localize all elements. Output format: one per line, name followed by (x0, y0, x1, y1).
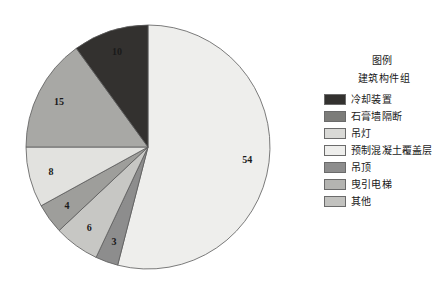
legend-item-label: 预制混凝土覆盖层 (351, 145, 433, 156)
pie-slice-value-label: 6 (87, 222, 92, 233)
legend-item-label: 其他 (351, 196, 371, 207)
legend-item-label: 石膏墙隔断 (351, 111, 402, 122)
pie-slice-value-label: 54 (242, 154, 252, 165)
legend-item-label: 吊灯 (351, 128, 371, 139)
legend-swatch (324, 196, 346, 207)
pie-slice-value-label: 8 (49, 166, 54, 177)
legend-swatch (324, 128, 346, 139)
legend-list: 冷却装置石膏墙隔断吊灯预制混凝土覆盖层吊顶曳引电梯其他 (324, 91, 446, 209)
legend-item[interactable]: 曳引电梯 (324, 176, 446, 192)
legend-item[interactable]: 其他 (324, 193, 446, 209)
legend: 图例 建筑构件组 冷却装置石膏墙隔断吊灯预制混凝土覆盖层吊顶曳引电梯其他 (324, 52, 446, 210)
legend-title: 图例 (324, 52, 446, 67)
pie-chart-plot-area: 5436481510 (0, 0, 300, 294)
pie-slice-value-label: 3 (112, 236, 117, 247)
legend-swatch (324, 179, 346, 190)
pie-slice-group (26, 25, 270, 269)
legend-item[interactable]: 吊顶 (324, 159, 446, 175)
legend-swatch (324, 145, 346, 156)
legend-item-label: 冷却装置 (351, 94, 392, 105)
pie-chart-figure: 5436481510 图例 建筑构件组 冷却装置石膏墙隔断吊灯预制混凝土覆盖层吊… (0, 0, 446, 294)
legend-item[interactable]: 冷却装置 (324, 91, 446, 107)
legend-swatch (324, 111, 346, 122)
pie-slice-value-label: 10 (112, 46, 122, 57)
legend-item-label: 曳引电梯 (351, 179, 392, 190)
legend-subtitle: 建筑构件组 (324, 70, 446, 85)
pie-slice-value-label: 15 (54, 96, 64, 107)
pie-slice-value-label: 4 (65, 200, 70, 211)
legend-item[interactable]: 预制混凝土覆盖层 (324, 142, 446, 158)
legend-item-label: 吊顶 (351, 162, 371, 173)
legend-swatch (324, 162, 346, 173)
legend-item[interactable]: 石膏墙隔断 (324, 108, 446, 124)
legend-item[interactable]: 吊灯 (324, 125, 446, 141)
pie-chart-svg: 5436481510 (0, 0, 300, 294)
legend-swatch (324, 94, 346, 105)
